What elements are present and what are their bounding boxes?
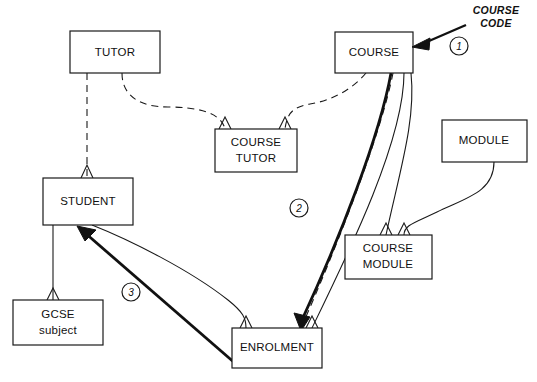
entity-gcse-subject-label-line2: subject xyxy=(39,324,77,336)
entity-course-tutor-label-line1: COURSE xyxy=(231,136,282,148)
marker-1: 1 xyxy=(450,37,468,55)
entity-course-tutor[interactable]: COURSE TUTOR xyxy=(215,129,297,172)
marker-2-label: 2 xyxy=(295,203,302,214)
entity-student-label: STUDENT xyxy=(60,195,116,207)
entity-course-tutor-label-line2: TUTOR xyxy=(236,152,276,164)
entity-enrolment[interactable]: ENROLMENT xyxy=(232,328,322,368)
entity-enrolment-label: ENROLMENT xyxy=(240,341,314,353)
crowsfoot-course-tutor-left xyxy=(219,117,231,129)
entity-course-label: COURSE xyxy=(349,46,400,58)
relationship-course-course-tutor xyxy=(285,73,366,129)
entity-gcse-subject-rect[interactable] xyxy=(13,300,103,345)
entity-student[interactable]: STUDENT xyxy=(43,178,133,225)
marker-1-label: 1 xyxy=(456,41,462,52)
entity-tutor[interactable]: TUTOR xyxy=(70,31,160,73)
entity-course[interactable]: COURSE xyxy=(335,32,413,73)
callout-arrowhead-icon xyxy=(412,38,430,50)
entity-tutor-label: TUTOR xyxy=(95,46,135,58)
highlight-arrow-course-to-enrolment xyxy=(294,73,391,331)
entity-gcse-subject-label-line1: GCSE xyxy=(41,308,75,320)
entity-gcse-subject[interactable]: GCSE subject xyxy=(13,300,103,345)
entity-course-module[interactable]: COURSE MODULE xyxy=(345,235,432,279)
entity-course-module-label-line2: MODULE xyxy=(363,258,414,270)
callout-label-line2: CODE xyxy=(480,17,512,29)
er-diagram: TUTOR COURSE COURSE TUTOR MODULE STUDENT… xyxy=(0,0,537,382)
entity-module-label: MODULE xyxy=(459,134,510,146)
relationship-tutor-course-tutor xyxy=(122,73,225,129)
entity-module[interactable]: MODULE xyxy=(442,120,527,162)
entity-course-module-label-line1: COURSE xyxy=(363,242,414,254)
relationship-student-enrolment xyxy=(92,225,246,328)
relationship-course-course-module xyxy=(386,73,412,235)
marker-3-label: 3 xyxy=(128,287,134,298)
marker-3: 3 xyxy=(122,283,140,301)
callout-label-line1: COURSE xyxy=(473,4,520,16)
relationship-course-enrolment-solid xyxy=(312,73,404,328)
diagram-canvas: TUTOR COURSE COURSE TUTOR MODULE STUDENT… xyxy=(0,0,537,382)
relationship-module-course-module xyxy=(404,162,494,235)
marker-2: 2 xyxy=(290,199,308,217)
